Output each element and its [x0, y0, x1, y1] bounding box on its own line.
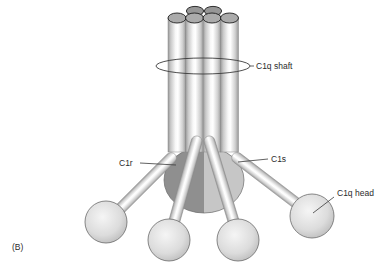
c1q-shaft-cylinders	[168, 6, 239, 152]
c1q-head-sphere	[85, 201, 127, 243]
c1q-head-sphere	[290, 194, 334, 238]
panel-label: (B)	[12, 242, 24, 252]
front-cylinder	[203, 18, 221, 152]
front-cylinder-top	[221, 13, 239, 23]
front-cylinder-top	[203, 13, 221, 23]
figure-panel: C1q shaft C1r C1s C1q head (B)	[0, 0, 386, 265]
c1q-head-sphere	[148, 219, 190, 261]
c1q-head-sphere	[217, 219, 259, 261]
c1-complex-diagram: C1q shaft C1r C1s C1q head (B)	[0, 0, 386, 265]
c1q-shaft-label: C1q shaft	[256, 61, 293, 71]
c1s-label: C1s	[271, 154, 286, 164]
front-cylinder-top	[186, 13, 204, 23]
front-cylinder	[186, 18, 204, 152]
c1q-head-label: C1q head	[337, 188, 374, 198]
front-cylinder	[221, 18, 239, 152]
front-cylinder-top	[168, 13, 186, 23]
front-cylinder	[168, 18, 186, 152]
c1r-label: C1r	[119, 158, 133, 168]
